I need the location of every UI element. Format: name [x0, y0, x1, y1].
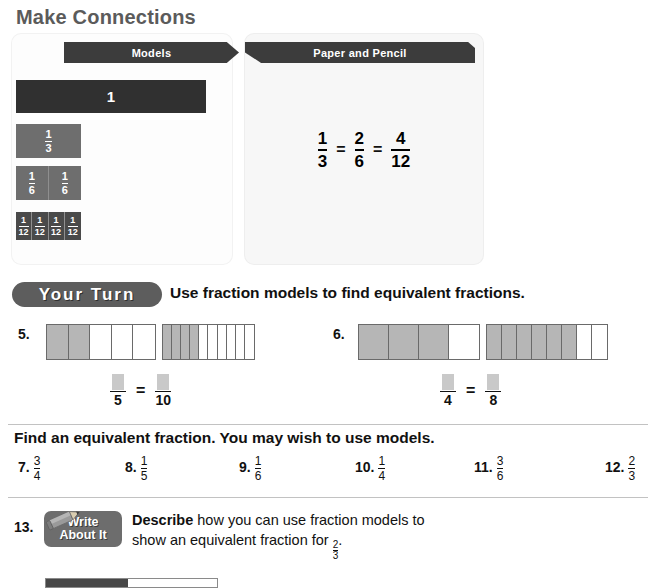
strip-cell-twelfth: 1 12	[49, 212, 65, 240]
bar-part-shaded[interactable]	[487, 325, 502, 359]
bar-part-empty[interactable]	[227, 325, 236, 359]
bar-segment-dark	[46, 579, 128, 587]
bar-part-empty[interactable]	[449, 325, 479, 359]
write-about-it-prompt: Describe how you can use fraction models…	[132, 511, 432, 561]
item-fraction: 3 6	[497, 455, 504, 482]
section-divider	[8, 497, 648, 498]
answer-equation-6: 4 = 8	[440, 374, 501, 407]
fraction-bar-fifths[interactable]	[46, 324, 156, 360]
bar-part-shaded[interactable]	[359, 325, 389, 359]
section-divider	[8, 424, 648, 425]
fraction-one-third: 1 3	[45, 129, 51, 154]
equation-fraction-2: 2 6	[355, 130, 364, 170]
bar-part-shaded[interactable]	[190, 325, 199, 359]
fraction-one-twelfth: 1 12	[19, 216, 29, 237]
fraction-bar-fourths[interactable]	[358, 324, 480, 360]
item-fraction: 1 5	[141, 455, 148, 482]
fraction-one-twelfth: 1 12	[68, 216, 78, 237]
find-item-10[interactable]: 10. 1 4	[355, 455, 385, 482]
bar-part-shaded[interactable]	[172, 325, 181, 359]
bar-part-shaded[interactable]	[532, 325, 547, 359]
fraction-one-twelfth: 1 12	[51, 216, 61, 237]
item-fraction: 1 4	[378, 455, 385, 482]
problem-number: 5.	[18, 326, 30, 342]
find-item-8[interactable]: 8. 1 5	[125, 455, 147, 482]
answer-fraction-left[interactable]: 5	[110, 374, 126, 407]
bar-part-empty[interactable]	[133, 325, 155, 359]
equals-sign: =	[336, 141, 345, 159]
bar-part-shaded[interactable]	[163, 325, 172, 359]
fraction-strip-whole: 1	[16, 80, 206, 113]
answer-blank[interactable]	[487, 374, 499, 390]
fraction-one-sixth: 1 6	[29, 171, 35, 196]
equation-fraction-3: 4 12	[391, 130, 410, 170]
bar-part-shaded[interactable]	[419, 325, 449, 359]
prompt-end: .	[338, 532, 342, 548]
bar-part-shaded[interactable]	[181, 325, 190, 359]
equation-fraction-1: 1 3	[318, 130, 327, 170]
bar-part-empty[interactable]	[112, 325, 134, 359]
strip-cell-twelfth: 1 12	[32, 212, 48, 240]
pencil-icon	[44, 505, 86, 533]
find-item-11[interactable]: 11. 3 6	[474, 455, 503, 482]
bar-part-shaded[interactable]	[69, 325, 91, 359]
fraction-one-twelfth: 1 12	[35, 216, 45, 237]
bar-part-empty[interactable]	[577, 325, 592, 359]
bar-part-empty[interactable]	[592, 325, 607, 359]
bar-part-shaded[interactable]	[502, 325, 517, 359]
answer-blank[interactable]	[157, 374, 169, 390]
item-fraction: 1 6	[255, 455, 262, 482]
your-turn-instruction: Use fraction models to find equivalent f…	[170, 284, 525, 302]
item-fraction: 3 4	[34, 455, 41, 482]
find-equivalent-section: Find an equivalent fraction. You may wis…	[0, 429, 655, 495]
bar-part-empty[interactable]	[218, 325, 227, 359]
your-turn-section: Your Turn Use fraction models to find eq…	[0, 280, 655, 314]
models-banner: Models	[64, 42, 239, 63]
find-items-list: 7. 3 4 8. 1 5 9. 1 6 10. 1 4	[0, 455, 655, 495]
bar-part-shaded[interactable]	[47, 325, 69, 359]
strip-cell-sixth: 1 6	[49, 166, 82, 200]
bar-part-empty[interactable]	[199, 325, 208, 359]
fraction-strip-twelfths: 1 12 1 12 1 12 1 12	[16, 212, 81, 240]
bar-part-empty[interactable]	[236, 325, 245, 359]
page-title: Make Connections	[16, 6, 196, 29]
problem-number: 6.	[333, 326, 345, 342]
answer-blank[interactable]	[442, 374, 454, 390]
equals-sign: =	[136, 382, 145, 400]
bar-part-shaded[interactable]	[389, 325, 419, 359]
fraction-bar-eighths[interactable]	[486, 324, 608, 360]
find-instruction: Find an equivalent fraction. You may wis…	[14, 429, 435, 447]
bar-part-shaded[interactable]	[517, 325, 532, 359]
answer-fraction-left[interactable]: 4	[440, 374, 456, 407]
problem-number: 13.	[14, 519, 33, 535]
answer-fraction-right[interactable]: 8	[485, 374, 501, 407]
fraction-one-sixth: 1 6	[62, 171, 68, 196]
find-item-9[interactable]: 9. 1 6	[239, 455, 261, 482]
bar-part-empty[interactable]	[245, 325, 254, 359]
answer-fraction-right[interactable]: 10	[155, 374, 171, 407]
bar-part-empty[interactable]	[90, 325, 112, 359]
find-item-7[interactable]: 7. 3 4	[18, 455, 40, 482]
find-item-12[interactable]: 12. 2 3	[605, 455, 635, 482]
bar-part-empty[interactable]	[208, 325, 217, 359]
strip-cell-third: 1 3	[16, 124, 81, 158]
bar-part-shaded[interactable]	[547, 325, 562, 359]
strip-cell-whole: 1	[16, 80, 206, 113]
equals-sign: =	[466, 382, 475, 400]
answer-blank[interactable]	[112, 374, 124, 390]
paper-and-pencil-banner: Paper and Pencil	[245, 42, 475, 63]
write-about-it-section: 13. Write About It Describe how you can …	[0, 505, 655, 565]
strip-cell-twelfth: 1 12	[16, 212, 32, 240]
bar-segment-light	[128, 579, 217, 587]
bar-part-shaded[interactable]	[562, 325, 577, 359]
cut-off-fraction-bar	[45, 578, 218, 588]
prompt-lead: Describe	[132, 512, 193, 528]
strip-cell-sixth: 1 6	[16, 166, 49, 200]
paper-and-pencil-equation: 1 3 = 2 6 = 4 12	[245, 130, 483, 170]
equals-sign: =	[373, 141, 382, 159]
fraction-strip-sixths: 1 6 1 6	[16, 166, 81, 200]
your-turn-badge: Your Turn	[12, 282, 162, 307]
model-problems-section: 5. 5 = 10 6. 4 = 8	[0, 322, 655, 422]
strip-cell-twelfth: 1 12	[65, 212, 81, 240]
fraction-bar-tenths[interactable]	[162, 324, 255, 360]
